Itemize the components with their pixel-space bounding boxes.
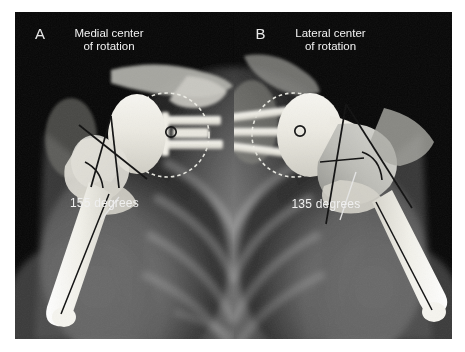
panel-caption-b: Lateral center of rotation [278, 27, 384, 52]
xray-frame: A Medial center of rotation 155 degrees [15, 12, 452, 339]
panel-b-lateral-center: B Lateral center of rotation 135 degrees [234, 12, 453, 339]
panel-a-radiograph [15, 12, 234, 339]
panel-letter-b: B [256, 26, 267, 41]
radiograph-figure: A Medial center of rotation 155 degrees [0, 0, 465, 352]
panel-letter-a: A [35, 26, 46, 41]
angle-label-b: 135 degrees [292, 198, 361, 211]
panel-b-radiograph [234, 12, 453, 339]
panel-a-medial-center: A Medial center of rotation 155 degrees [15, 12, 234, 339]
angle-label-a: 155 degrees [70, 197, 139, 210]
panel-caption-a: Medial center of rotation [57, 27, 161, 52]
